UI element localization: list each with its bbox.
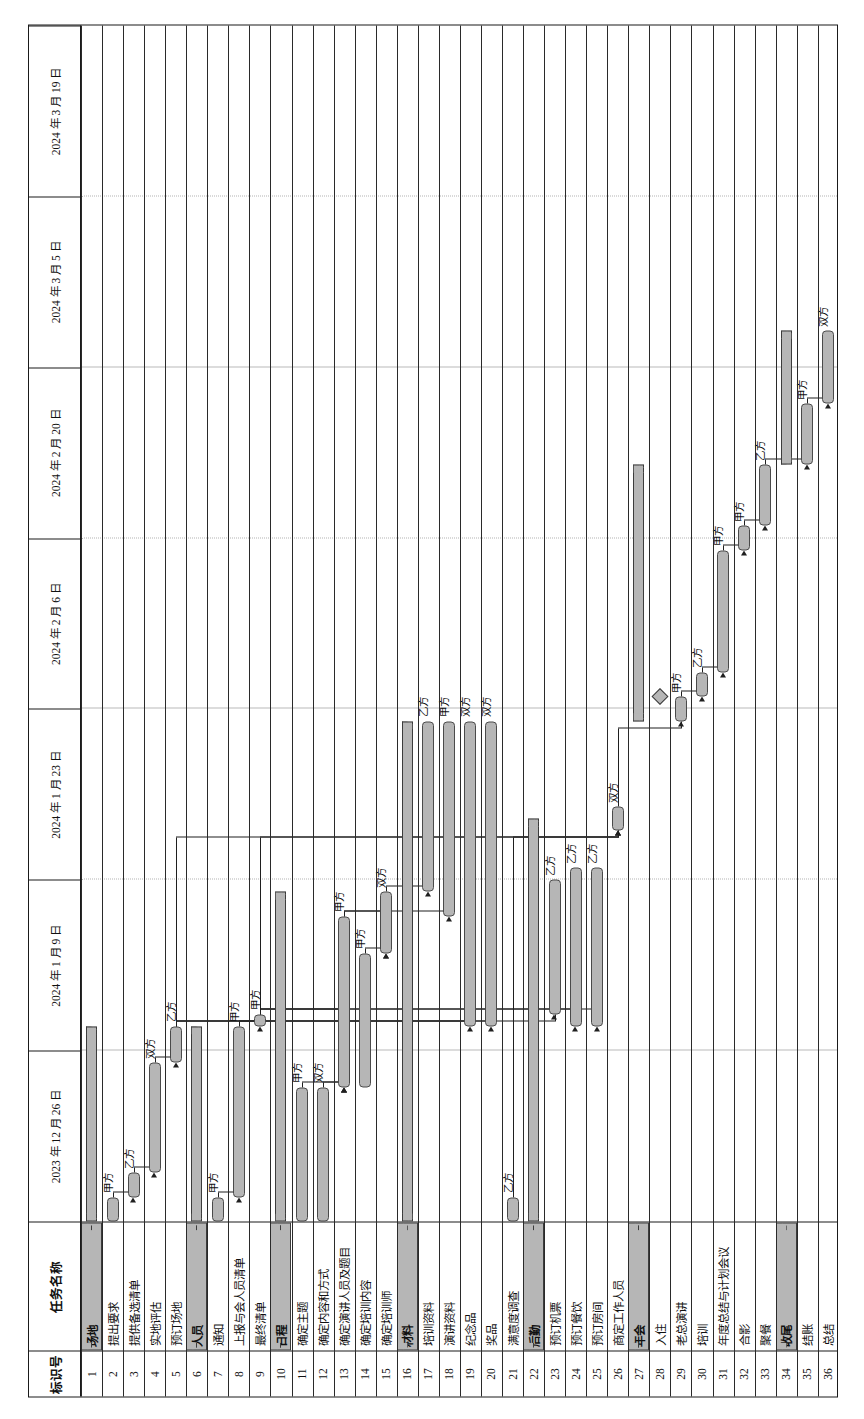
task-bar[interactable] [212, 1197, 224, 1221]
task-bar[interactable] [107, 1197, 119, 1221]
task-bar[interactable] [170, 1026, 182, 1063]
row-name: 预订房间 [586, 1222, 607, 1350]
row-name-summary: 后勤 [523, 1222, 544, 1350]
row-name: 合影 [734, 1222, 755, 1350]
row-id: 14 [355, 1351, 376, 1396]
row-id: 2 [102, 1351, 123, 1396]
summary-bar[interactable] [275, 892, 286, 1222]
task-bar[interactable] [233, 1026, 245, 1197]
link-arrowhead [151, 1172, 157, 1177]
task-bar[interactable] [549, 879, 561, 1013]
row-id: 4 [144, 1351, 165, 1396]
link-arrowhead [678, 721, 684, 726]
link-arrowhead [720, 672, 726, 677]
link-arrowhead [236, 1197, 242, 1202]
task-bar[interactable] [612, 806, 624, 830]
row-separator [628, 25, 629, 1396]
row-separator [607, 25, 608, 1396]
task-bar[interactable] [296, 1087, 308, 1221]
row-id: 16 [397, 1351, 418, 1396]
summary-bar[interactable] [633, 464, 644, 720]
task-bar[interactable] [149, 1062, 161, 1172]
timeline-tick-label: 2023 年 12 月 26 日 [29, 1050, 81, 1221]
timeline-tick-label: 2024 年 1 月 23 日 [29, 708, 81, 879]
row-name: 聚餐 [755, 1222, 776, 1350]
row-name-summary: 场地 [81, 1222, 102, 1350]
summary-bar[interactable] [191, 1026, 202, 1221]
row-separator [123, 25, 124, 1396]
task-bar[interactable] [696, 672, 708, 696]
link-arrowhead [804, 464, 810, 469]
task-bar[interactable] [759, 464, 771, 525]
row-id: 10 [270, 1351, 291, 1396]
row-name-summary: 收尾 [776, 1222, 797, 1350]
row-separator [397, 25, 398, 1396]
task-bar[interactable] [485, 721, 497, 1026]
row-id: 5 [165, 1351, 186, 1396]
row-name: 商定工作人员 [607, 1222, 628, 1350]
row-name: 老总演讲 [670, 1222, 691, 1350]
row-name: 提出要求 [102, 1222, 123, 1350]
summary-bar[interactable] [86, 1026, 97, 1221]
row-id: 8 [228, 1351, 249, 1396]
column-header-name: 任务名称 [29, 1222, 81, 1350]
row-separator [81, 25, 82, 1396]
row-name: 培训资料 [418, 1222, 439, 1350]
row-separator [376, 25, 377, 1396]
row-id: 12 [313, 1351, 334, 1396]
milestone-marker[interactable] [651, 688, 668, 705]
row-separator [734, 25, 735, 1396]
link-arrowhead [488, 1026, 494, 1031]
row-id: 22 [523, 1351, 544, 1396]
row-name: 上报与会人员清单 [228, 1222, 249, 1350]
timeline-tick-label: 2024 年 3 月 5 日 [29, 196, 81, 367]
task-bar[interactable] [717, 550, 729, 672]
column-header-id: 标识号 [29, 1351, 81, 1396]
row-name: 预订机票 [544, 1222, 565, 1350]
row-separator [270, 25, 271, 1396]
task-bar[interactable] [507, 1197, 519, 1221]
timeline-tick-label: 2024 年 2 月 20 日 [29, 367, 81, 538]
task-bar[interactable] [822, 330, 834, 403]
row-id: 25 [586, 1351, 607, 1396]
task-bar[interactable] [380, 892, 392, 953]
chart-frame: 标识号 123456789101112131415161718192021222… [28, 24, 838, 1397]
link-arrowhead [425, 892, 431, 897]
task-bar[interactable] [254, 1014, 266, 1026]
row-separator [334, 25, 335, 1396]
task-bar[interactable] [570, 867, 582, 1026]
task-bar[interactable] [317, 1087, 329, 1221]
row-separator [439, 25, 440, 1396]
row-separator [292, 25, 293, 1396]
row-separator [713, 25, 714, 1396]
task-bar[interactable] [338, 916, 350, 1087]
task-bar[interactable] [359, 953, 371, 1087]
row-separator [797, 25, 798, 1396]
task-bar[interactable] [591, 867, 603, 1026]
row-name: 入住 [649, 1222, 670, 1350]
column-name: 任务名称 场地提出要求提供备选清单实地评估预订场地人员通知上报与会人员清单最终清… [29, 1221, 837, 1350]
link-arrowhead [341, 1087, 347, 1092]
task-bar[interactable] [464, 721, 476, 1026]
link-arrowhead [173, 1062, 179, 1067]
row-separator [313, 25, 314, 1396]
row-name-summary: 人员 [186, 1222, 207, 1350]
row-separator [818, 25, 819, 1396]
summary-bar[interactable] [781, 330, 792, 464]
row-separator [460, 25, 461, 1396]
task-bar[interactable] [738, 525, 750, 549]
gantt-plot-area: 2023 年 12 月 26 日2024 年 1 月 9 日2024 年 1 月… [29, 25, 837, 1221]
row-id: 23 [544, 1351, 565, 1396]
task-bar[interactable] [128, 1172, 140, 1196]
timeline-tick-label: 2024 年 1 月 9 日 [29, 879, 81, 1050]
row-id: 15 [376, 1351, 397, 1396]
summary-bar[interactable] [402, 721, 413, 1221]
task-bar[interactable] [443, 721, 455, 916]
task-bar[interactable] [801, 403, 813, 464]
row-id: 29 [670, 1351, 691, 1396]
task-bar[interactable] [675, 696, 687, 720]
link-arrowhead [699, 696, 705, 701]
task-bar[interactable] [422, 721, 434, 892]
row-separator [102, 25, 103, 1396]
summary-bar[interactable] [528, 818, 539, 1221]
